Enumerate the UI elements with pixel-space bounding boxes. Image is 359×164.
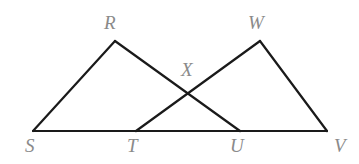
- segment-RU-line: [115, 41, 240, 131]
- segment-SR-line: [33, 41, 115, 131]
- vertex-label-U: U: [230, 136, 244, 155]
- vertex-label-R: R: [104, 13, 116, 32]
- geometry-figure: S R T X W U V: [0, 0, 359, 164]
- vertex-label-S: S: [25, 136, 35, 155]
- vertex-label-W: W: [248, 13, 264, 32]
- vertex-label-T: T: [127, 136, 138, 155]
- segment-WV-line: [260, 41, 327, 131]
- segment-TW-line: [136, 41, 260, 131]
- figure-canvas: [0, 0, 359, 164]
- vertex-label-X: X: [181, 60, 193, 79]
- vertex-label-V: V: [334, 136, 346, 155]
